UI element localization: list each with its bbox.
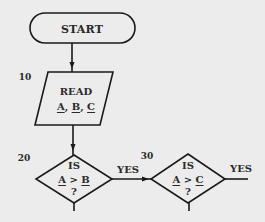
decision-1-is: IS	[68, 161, 80, 171]
condition-operator: >	[69, 174, 77, 185]
step-number-10: 10	[19, 73, 32, 82]
condition-left: A	[172, 174, 180, 185]
arrowhead-down-icon	[70, 62, 75, 69]
arrowhead-right-icon	[142, 177, 149, 182]
read-label: READ	[60, 87, 92, 97]
step-number-20: 20	[18, 154, 31, 163]
variable-c: C	[87, 101, 95, 112]
decision-2-question: ?	[185, 187, 191, 197]
flowchart-shapes	[0, 0, 265, 222]
decision-2-condition: A > C	[172, 175, 203, 185]
decision-1-condition: A > B	[58, 175, 90, 185]
flowchart-canvas: START 10 READ A, B, C 20 IS A > B ? YES …	[0, 0, 265, 222]
decision-2-is: IS	[182, 161, 194, 171]
variable-b: B	[72, 101, 80, 112]
separator: ,	[65, 101, 72, 112]
step-number-30: 30	[141, 152, 154, 161]
start-label: START	[61, 24, 103, 35]
read-variables: A, B, C	[57, 102, 95, 112]
arrowhead-down-icon	[71, 144, 76, 151]
condition-operator: >	[184, 174, 192, 185]
condition-right: C	[196, 174, 204, 185]
condition-right: B	[81, 174, 89, 185]
edge-label-yes-1: YES	[117, 165, 139, 175]
variable-a: A	[57, 101, 65, 112]
decision-1-question: ?	[71, 187, 77, 197]
read-input-parallelogram	[35, 72, 113, 125]
edge-label-yes-2: YES	[230, 164, 252, 174]
condition-left: A	[58, 174, 66, 185]
